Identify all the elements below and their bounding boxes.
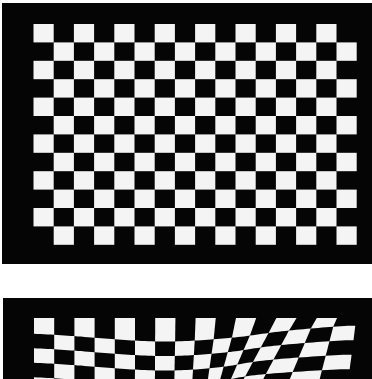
checker-square — [316, 24, 336, 42]
checker-square — [215, 226, 235, 244]
checker-square — [94, 42, 114, 60]
checker-square — [54, 42, 74, 60]
checker-square — [236, 134, 256, 152]
checker-square — [135, 79, 155, 97]
checker-square — [54, 335, 74, 351]
checker-square — [34, 134, 54, 152]
checker-square — [296, 190, 316, 208]
checker-square — [135, 116, 155, 134]
checker-square — [256, 190, 276, 208]
checker-square — [296, 153, 316, 171]
checker-square — [95, 367, 115, 379]
checker-square — [114, 98, 134, 116]
checker-square — [175, 226, 195, 244]
checkerboard-figure — [0, 0, 372, 379]
checker-square — [276, 61, 296, 79]
checker-square — [34, 61, 54, 79]
checker-square — [155, 24, 175, 42]
checker-square — [135, 153, 155, 171]
checker-square — [276, 208, 296, 226]
checker-square — [54, 226, 74, 244]
checker-square — [114, 24, 134, 42]
checker-square — [114, 134, 134, 152]
checker-square — [316, 134, 336, 152]
checker-square — [195, 318, 216, 341]
checker-square — [135, 226, 155, 244]
checker-square — [337, 116, 357, 134]
checker-square — [195, 134, 215, 152]
checker-square — [54, 190, 74, 208]
checker-square — [114, 208, 134, 226]
checker-square — [296, 79, 316, 97]
checker-square — [94, 226, 114, 244]
checker-square — [175, 153, 195, 171]
checker-square — [74, 24, 94, 42]
checker-square — [155, 318, 175, 342]
checker-square — [74, 134, 94, 152]
checker-square — [74, 318, 94, 338]
checker-square — [135, 341, 155, 356]
checker-square — [94, 79, 114, 97]
checker-square — [256, 116, 276, 134]
checker-square — [155, 134, 175, 152]
checker-square — [74, 98, 94, 116]
undistorted-checkerboard — [2, 3, 372, 264]
checker-square — [337, 153, 357, 171]
checker-square — [256, 153, 276, 171]
checker-square — [337, 79, 357, 97]
checker-square — [115, 318, 135, 341]
checker-square — [322, 355, 352, 371]
checker-square — [175, 341, 195, 356]
checker-square — [155, 61, 175, 79]
checker-square — [175, 190, 195, 208]
checker-square — [34, 208, 54, 226]
checker-square — [74, 208, 94, 226]
checker-square — [195, 61, 215, 79]
checker-square — [215, 79, 235, 97]
checkerboard-canvas — [0, 0, 372, 379]
checker-square — [195, 98, 215, 116]
checker-square — [215, 116, 235, 134]
checker-square — [236, 208, 256, 226]
checker-square — [296, 42, 316, 60]
checker-square — [337, 190, 357, 208]
checker-square — [135, 190, 155, 208]
checker-square — [174, 370, 193, 379]
checker-square — [276, 98, 296, 116]
checker-square — [54, 153, 74, 171]
checker-square — [256, 226, 276, 244]
checker-square — [195, 208, 215, 226]
checker-square — [54, 79, 74, 97]
checker-square — [236, 98, 256, 116]
checker-square — [34, 171, 54, 189]
checker-square — [34, 318, 54, 335]
checker-square — [236, 24, 256, 42]
checker-square — [54, 116, 74, 134]
checker-square — [34, 98, 54, 116]
checker-square — [337, 226, 357, 244]
checker-square — [114, 61, 134, 79]
checker-square — [256, 42, 276, 60]
checker-square — [256, 79, 276, 97]
checker-square — [236, 171, 256, 189]
checker-square — [215, 42, 235, 60]
checker-square — [330, 326, 356, 342]
checker-square — [195, 171, 215, 189]
checker-square — [276, 171, 296, 189]
checker-square — [74, 61, 94, 79]
checker-square — [296, 116, 316, 134]
checker-square — [34, 24, 54, 42]
checker-square — [114, 171, 134, 189]
checker-square — [296, 226, 316, 244]
checker-square — [94, 116, 114, 134]
checker-square — [316, 61, 336, 79]
checker-square — [195, 24, 215, 42]
distorted-checkerboard — [3, 298, 372, 379]
checker-square — [175, 79, 195, 97]
checker-square — [215, 190, 235, 208]
checker-square — [316, 171, 336, 189]
checker-square — [34, 348, 54, 364]
checker-square — [316, 98, 336, 116]
checker-square — [155, 171, 175, 189]
checker-square — [95, 338, 115, 354]
